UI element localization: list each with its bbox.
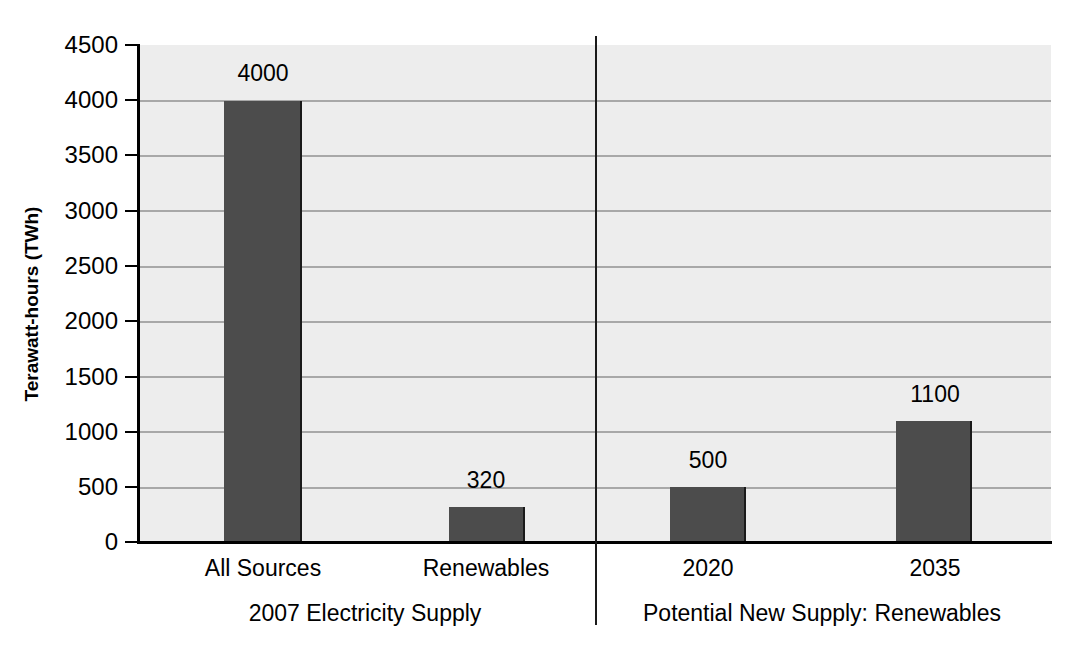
y-tick-label-3000: 3000: [8, 199, 118, 223]
y-tick-3500: [125, 154, 139, 156]
bar-value-all-sources: 4000: [203, 62, 323, 85]
y-tick-label-500: 500: [8, 475, 118, 499]
bar-2020: [670, 487, 746, 542]
y-tick-label-2000: 2000: [8, 309, 118, 333]
bar-all-sources: [224, 101, 302, 542]
y-tick-4000: [125, 99, 139, 101]
bar-chart: Terawatt-hours (TWh) 4500 4000 3500 3000…: [0, 0, 1091, 659]
bar-value-renewables: 320: [426, 469, 546, 492]
category-label-renewables: Renewables: [406, 557, 566, 580]
group-label-potential-new-supply: Potential New Supply: Renewables: [622, 602, 1022, 625]
y-tick-label-0: 0: [8, 530, 118, 554]
bar-value-2035: 1100: [875, 383, 995, 406]
y-tick-2500: [125, 265, 139, 267]
bar-renewables: [449, 507, 525, 542]
y-tick-3000: [125, 210, 139, 212]
category-label-2035: 2035: [855, 557, 1015, 580]
y-tick-label-4500: 4500: [8, 33, 118, 57]
y-axis-line: [137, 44, 140, 544]
y-tick-1000: [125, 431, 139, 433]
bar-2035: [896, 421, 972, 542]
y-tick-2000: [125, 320, 139, 322]
y-tick-label-2500: 2500: [8, 254, 118, 278]
y-tick-label-1000: 1000: [8, 420, 118, 444]
y-tick-0: [125, 541, 139, 543]
y-tick-1500: [125, 376, 139, 378]
y-tick-label-1500: 1500: [8, 365, 118, 389]
group-divider: [595, 36, 597, 625]
group-label-2007-supply: 2007 Electricity Supply: [165, 602, 565, 625]
category-label-2020: 2020: [628, 557, 788, 580]
bar-value-2020: 500: [648, 449, 768, 472]
y-tick-label-3500: 3500: [8, 143, 118, 167]
y-tick-label-4000: 4000: [8, 88, 118, 112]
category-label-all-sources: All Sources: [183, 557, 343, 580]
y-tick-500: [125, 486, 139, 488]
y-tick-4500: [125, 44, 139, 46]
